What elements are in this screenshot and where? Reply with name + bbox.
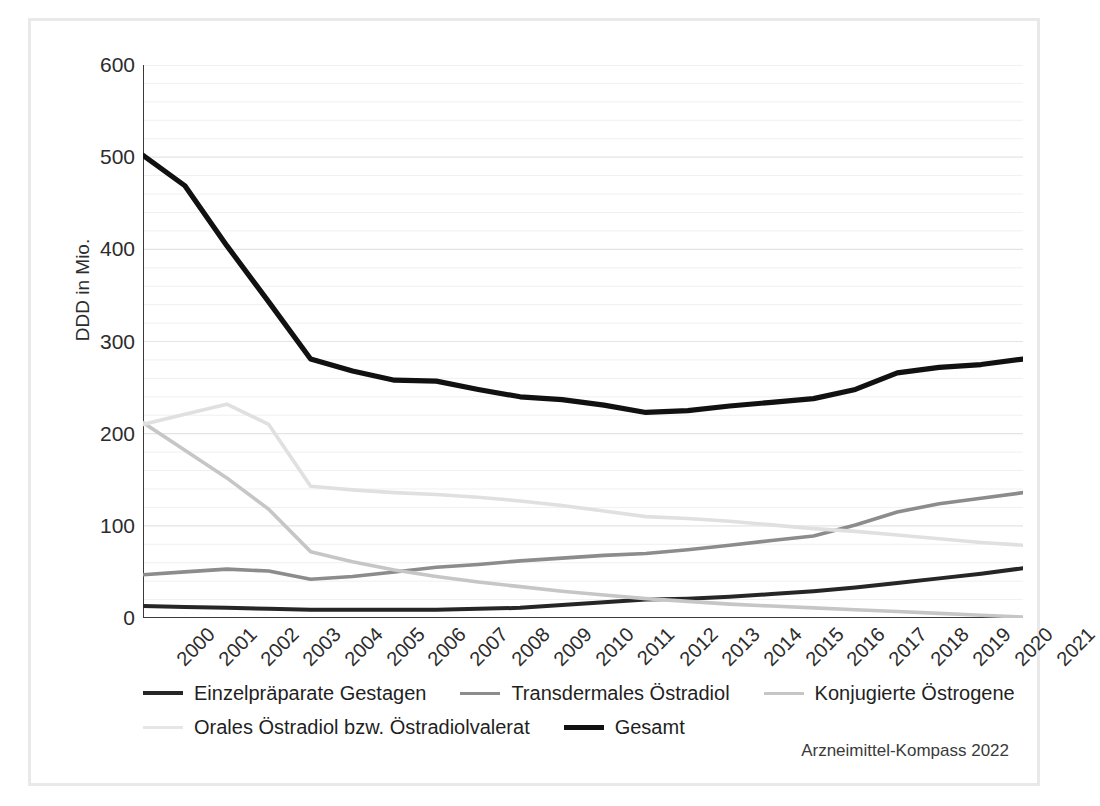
legend-line-swatch bbox=[460, 692, 500, 695]
plot-area bbox=[143, 65, 1023, 618]
x-tick-label: 2006 bbox=[423, 623, 471, 671]
x-tick-label: 2017 bbox=[884, 623, 932, 671]
legend-item-label: Orales Östradiol bzw. Östradiolvalerat bbox=[194, 716, 530, 739]
y-tick-label: 200 bbox=[77, 422, 135, 446]
x-tick-label: 2013 bbox=[717, 623, 765, 671]
legend-item[interactable]: Konjugierte Östrogene bbox=[764, 682, 1015, 705]
x-tick-label: 2001 bbox=[214, 623, 262, 671]
x-tick-label: 2000 bbox=[172, 623, 220, 671]
series-line-3 bbox=[143, 404, 1023, 545]
legend-row-secondary: Orales Östradiol bzw. ÖstradiolvaleratGe… bbox=[143, 710, 1023, 744]
x-tick-label: 2021 bbox=[1052, 623, 1100, 671]
legend-item-label: Konjugierte Östrogene bbox=[815, 682, 1015, 705]
y-tick-label: 300 bbox=[77, 330, 135, 354]
legend-item[interactable]: Transdermales Östradiol bbox=[460, 682, 729, 705]
y-tick-label: 100 bbox=[77, 514, 135, 538]
y-tick-label: 500 bbox=[77, 145, 135, 169]
x-tick-label: 2012 bbox=[675, 623, 723, 671]
series-line-0 bbox=[143, 568, 1023, 609]
legend-line-swatch bbox=[764, 692, 804, 695]
x-tick-label: 2019 bbox=[968, 623, 1016, 671]
x-tick-label: 2002 bbox=[256, 623, 304, 671]
x-tick-label: 2009 bbox=[549, 623, 597, 671]
x-axis-tick-labels: 2000200120022003200420052006200720082009… bbox=[143, 621, 1023, 679]
x-tick-label: 2018 bbox=[926, 623, 974, 671]
y-tick-label: 600 bbox=[77, 53, 135, 77]
legend-item[interactable]: Gesamt bbox=[564, 716, 685, 739]
y-tick-label: 400 bbox=[77, 237, 135, 261]
legend-item-label: Transdermales Östradiol bbox=[511, 682, 729, 705]
legend-row-primary: Einzelpräparate GestagenTransdermales Ös… bbox=[143, 676, 1023, 710]
legend-item[interactable]: Orales Östradiol bzw. Östradiolvalerat bbox=[143, 716, 530, 739]
x-tick-label: 2004 bbox=[340, 623, 388, 671]
legend-line-swatch bbox=[143, 691, 183, 695]
x-tick-label: 2015 bbox=[801, 623, 849, 671]
x-tick-label: 2011 bbox=[633, 623, 680, 670]
x-tick-label: 2016 bbox=[843, 623, 891, 671]
x-tick-label: 2007 bbox=[465, 623, 513, 671]
figure-frame: DDD in Mio. 0100200300400500600 20002001… bbox=[28, 18, 1040, 786]
source-attribution: Arzneimittel-Kompass 2022 bbox=[801, 741, 1009, 761]
x-tick-label: 2010 bbox=[591, 623, 639, 671]
x-tick-label: 2020 bbox=[1010, 623, 1058, 671]
legend-item[interactable]: Einzelpräparate Gestagen bbox=[143, 682, 426, 705]
x-tick-label: 2014 bbox=[759, 623, 807, 671]
x-tick-label: 2003 bbox=[298, 623, 346, 671]
legend-item-label: Einzelpräparate Gestagen bbox=[194, 682, 426, 705]
chart-canvas bbox=[143, 65, 1023, 618]
chart-legend: Einzelpräparate GestagenTransdermales Ös… bbox=[143, 676, 1023, 744]
y-tick-label: 0 bbox=[77, 606, 135, 630]
legend-line-swatch bbox=[564, 725, 604, 730]
x-tick-label: 2008 bbox=[507, 623, 555, 671]
legend-item-label: Gesamt bbox=[615, 716, 685, 739]
x-tick-label: 2005 bbox=[382, 623, 430, 671]
legend-line-swatch bbox=[143, 726, 183, 729]
y-axis-tick-labels: 0100200300400500600 bbox=[71, 65, 135, 618]
